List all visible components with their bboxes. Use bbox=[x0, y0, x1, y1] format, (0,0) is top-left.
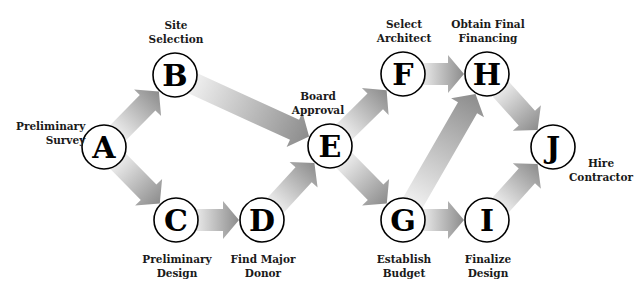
node-d: D bbox=[240, 198, 284, 242]
node-layer: ABCDEFGHIJ bbox=[82, 52, 575, 242]
node-letter: I bbox=[480, 203, 494, 238]
node-i: I bbox=[465, 198, 509, 242]
label-select-architect: Select Architect bbox=[372, 17, 436, 45]
node-letter: H bbox=[473, 57, 501, 92]
node-letter: J bbox=[543, 130, 560, 165]
node-letter: E bbox=[319, 129, 342, 164]
node-g: G bbox=[381, 198, 425, 242]
node-a: A bbox=[82, 125, 126, 169]
label-preliminary-survey: Preliminary Survey bbox=[16, 119, 85, 147]
arrow-c-to-d bbox=[192, 201, 239, 239]
label-preliminary-design: Preliminary Design bbox=[140, 252, 214, 280]
network-diagram: ABCDEFGHIJ bbox=[0, 0, 644, 294]
label-find-major-donor: Find Major Donor bbox=[229, 252, 297, 280]
node-h: H bbox=[465, 52, 509, 96]
label-finalize-design: Finalize Design bbox=[458, 252, 518, 280]
node-letter: C bbox=[164, 203, 188, 238]
node-letter: G bbox=[390, 203, 416, 238]
node-b: B bbox=[153, 53, 197, 97]
label-establish-budget: Establish Budget bbox=[370, 252, 438, 280]
label-hire-contractor: Hire Contractor bbox=[566, 156, 636, 184]
node-letter: F bbox=[392, 57, 413, 92]
node-c: C bbox=[154, 198, 198, 242]
node-letter: D bbox=[249, 203, 275, 238]
label-obtain-final-financing: Obtain Final Financing bbox=[446, 17, 530, 45]
node-letter: B bbox=[162, 58, 187, 93]
label-site-selection: Site Selection bbox=[147, 18, 205, 46]
label-board-approval: Board Approval bbox=[286, 89, 350, 117]
node-letter: A bbox=[91, 130, 116, 165]
arrow-g-to-h bbox=[401, 94, 484, 212]
node-f: F bbox=[381, 52, 425, 96]
node-e: E bbox=[308, 124, 352, 168]
